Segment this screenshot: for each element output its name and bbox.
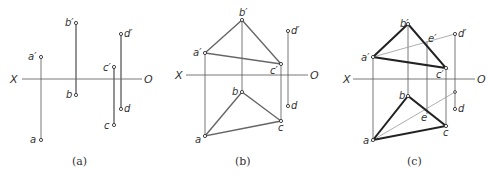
point-a-prime bbox=[39, 55, 42, 58]
label-c-prime: c′ bbox=[436, 69, 444, 80]
label-c: c bbox=[278, 122, 284, 133]
label-d: d bbox=[124, 103, 131, 114]
caption-c: (c) bbox=[407, 155, 422, 168]
point-c-prime bbox=[112, 65, 115, 68]
point-c bbox=[112, 123, 115, 126]
point-a bbox=[39, 138, 42, 141]
label-c-prime: c′ bbox=[103, 62, 111, 73]
x-axis-label: X bbox=[174, 69, 183, 82]
label-b: b bbox=[66, 89, 72, 100]
o-axis-label: O bbox=[144, 73, 153, 86]
point-b bbox=[240, 90, 243, 93]
point-b-prime bbox=[74, 21, 77, 24]
point-d bbox=[286, 104, 289, 107]
point-a bbox=[371, 138, 374, 141]
label-c: c bbox=[104, 120, 110, 131]
caption-b: (b) bbox=[235, 155, 251, 168]
x-axis-label: X bbox=[9, 73, 18, 86]
label-d-prime: d′ bbox=[124, 28, 133, 39]
panel-b: X O a′ a b′ b c′ c d′ d (b) bbox=[174, 7, 319, 168]
triangle-front-view bbox=[205, 20, 281, 64]
label-c-prime: c′ bbox=[270, 65, 278, 76]
label-c: c bbox=[443, 127, 449, 138]
projection-diagram: X O a′ a b′ b c′ c d′ d (a) X O bbox=[0, 0, 488, 174]
panel-a: X O a′ a b′ b c′ c d′ d (a) bbox=[9, 17, 153, 168]
caption-a: (a) bbox=[72, 155, 87, 168]
point-d-prime bbox=[119, 32, 122, 35]
o-axis-label: O bbox=[477, 73, 486, 86]
label-e: e bbox=[421, 112, 427, 123]
point-a-prime bbox=[203, 51, 206, 54]
label-a-prime: a′ bbox=[193, 47, 202, 58]
label-a-prime: a′ bbox=[28, 51, 37, 62]
point-c-prime bbox=[444, 66, 447, 69]
label-d-prime: d′ bbox=[458, 28, 467, 39]
label-d: d bbox=[458, 103, 465, 114]
x-axis-label: X bbox=[342, 73, 351, 86]
o-axis-label: O bbox=[310, 69, 319, 82]
label-b-prime: b′ bbox=[400, 18, 409, 29]
point-b bbox=[74, 93, 77, 96]
label-d-prime: d′ bbox=[291, 25, 300, 36]
point-d bbox=[119, 107, 122, 110]
triangle-front-view bbox=[373, 24, 446, 68]
point-c-prime bbox=[279, 62, 282, 65]
label-a-prime: a′ bbox=[361, 52, 370, 63]
point-d bbox=[453, 107, 456, 110]
label-b-prime: b′ bbox=[65, 17, 74, 28]
label-e-prime: e′ bbox=[428, 33, 437, 44]
label-a: a bbox=[363, 135, 369, 146]
label-b: b bbox=[399, 90, 405, 101]
panel-c: X O a′ a b′ b c′ c d′ d e′ e (c) bbox=[342, 18, 486, 168]
point-aux-top bbox=[454, 91, 457, 94]
point-a bbox=[203, 134, 206, 137]
label-d: d bbox=[291, 100, 298, 111]
triangle-top-view bbox=[205, 92, 281, 136]
point-d-prime bbox=[453, 32, 456, 35]
label-a: a bbox=[195, 134, 201, 145]
label-a: a bbox=[30, 134, 36, 145]
point-a-prime bbox=[371, 55, 374, 58]
label-b: b bbox=[232, 86, 238, 97]
point-b-prime bbox=[240, 18, 243, 21]
point-b bbox=[406, 94, 409, 97]
point-d-prime bbox=[286, 29, 289, 32]
label-b-prime: b′ bbox=[239, 7, 248, 18]
